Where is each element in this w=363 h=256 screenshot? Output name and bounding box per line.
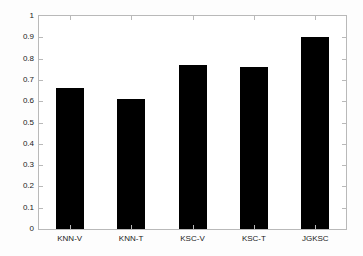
y-tick-mark <box>39 37 43 38</box>
y-tick-mark <box>342 59 346 60</box>
y-tick-label: 0.5 <box>23 119 34 127</box>
y-tick-label: 1 <box>30 12 34 20</box>
x-tick-mark <box>70 16 71 20</box>
x-tick-mark <box>315 16 316 20</box>
x-tick-mark <box>70 225 71 229</box>
y-tick-mark <box>342 123 346 124</box>
y-tick-mark <box>39 144 43 145</box>
y-tick-label: 0.3 <box>23 161 34 169</box>
y-tick-label: 0.9 <box>23 33 34 41</box>
x-tick-label: KSC-V <box>180 235 204 243</box>
y-tick-mark <box>39 123 43 124</box>
y-tick-mark <box>342 80 346 81</box>
y-tick-label: 0.2 <box>23 182 34 190</box>
y-tick-mark <box>342 37 346 38</box>
x-tick-mark <box>193 16 194 20</box>
x-tick-label: KNN-V <box>57 235 82 243</box>
plot-axes: 00.10.20.30.40.50.60.70.80.91KNN-VKNN-TK… <box>38 15 347 230</box>
y-tick-label: 0 <box>30 225 34 233</box>
x-tick-label: JGKSC <box>302 235 329 243</box>
y-tick-label: 0.8 <box>23 55 34 63</box>
x-tick-mark <box>131 16 132 20</box>
x-tick-label: KSC-T <box>242 235 266 243</box>
y-tick-label: 0.6 <box>23 97 34 105</box>
bar-ksc-v <box>179 65 207 229</box>
bar-knn-t <box>117 99 145 229</box>
x-tick-mark <box>193 225 194 229</box>
y-tick-mark <box>39 186 43 187</box>
bar-ksc-t <box>240 67 268 229</box>
y-tick-label: 0.1 <box>23 204 34 212</box>
figure-canvas: 00.10.20.30.40.50.60.70.80.91KNN-VKNN-TK… <box>0 0 363 256</box>
y-tick-mark <box>342 208 346 209</box>
y-tick-mark <box>342 144 346 145</box>
x-tick-label: KNN-T <box>119 235 143 243</box>
y-tick-mark <box>39 59 43 60</box>
bar-knn-v <box>56 88 84 229</box>
y-tick-mark <box>39 208 43 209</box>
y-tick-mark <box>342 186 346 187</box>
x-tick-mark <box>131 225 132 229</box>
x-tick-mark <box>254 225 255 229</box>
x-tick-mark <box>254 16 255 20</box>
y-tick-mark <box>342 165 346 166</box>
y-tick-mark <box>39 80 43 81</box>
y-tick-mark <box>39 165 43 166</box>
y-tick-label: 0.4 <box>23 140 34 148</box>
x-tick-mark <box>315 225 316 229</box>
y-tick-label: 0.7 <box>23 76 34 84</box>
y-tick-mark <box>39 101 43 102</box>
y-tick-mark <box>342 101 346 102</box>
bar-jgksc <box>301 37 329 229</box>
